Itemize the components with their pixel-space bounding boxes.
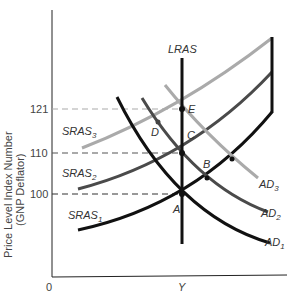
sras2-curve: [78, 72, 272, 189]
ad2-label: AD2: [260, 207, 281, 222]
point-b-label: B: [203, 158, 210, 170]
y-axis-label-line2: (GNP Deflator): [14, 153, 26, 226]
point-d-label: D: [151, 126, 159, 138]
point-ad3-sras1-marker: [230, 157, 235, 162]
ad2-label-sub: 2: [275, 213, 281, 222]
point-a-label: A: [172, 203, 180, 215]
sras3-label-main: SRAS: [62, 125, 93, 137]
tick-label-110: 110: [30, 147, 48, 159]
sras2-label: SRAS2: [62, 167, 97, 182]
x-axis: [52, 275, 287, 277]
ad2-curve: [142, 98, 268, 212]
tick-label-121: 121: [30, 103, 48, 115]
sras3-label-sub: 3: [92, 131, 97, 140]
sras1-label-sub: 1: [98, 215, 102, 224]
point-e-label: E: [188, 103, 196, 115]
ad3-label-sub: 3: [274, 184, 279, 193]
sras3-label: SRAS3: [62, 125, 97, 140]
tick-label-100: 100: [30, 188, 48, 200]
origin-label: 0: [46, 281, 52, 293]
point-e-marker: [179, 106, 185, 112]
sras2-label-main: SRAS: [62, 167, 93, 179]
y-axis-label-line1: Price Level Index Number: [2, 131, 14, 258]
ad1-label: AD1: [264, 236, 285, 251]
ad3-label-main: AD: [258, 178, 274, 190]
ad1-label-sub: 1: [280, 242, 284, 251]
point-d-marker: [156, 120, 161, 125]
point-c-label: C: [187, 129, 195, 141]
lras-label: LRAS: [168, 43, 197, 55]
sras1-label: SRAS1: [68, 209, 102, 224]
point-a-marker: [179, 191, 185, 197]
point-b-marker: [205, 176, 210, 181]
aggregate-supply-demand-chart: 121 110 100 0 Y Price Level Index Number…: [0, 0, 289, 296]
sras1-label-main: SRAS: [68, 209, 99, 221]
point-c-marker: [179, 150, 185, 156]
x-label-y: Y: [178, 281, 186, 293]
ad2-label-main: AD: [260, 207, 276, 219]
ad3-label: AD3: [258, 178, 279, 193]
sras2-label-sub: 2: [91, 173, 97, 182]
ad1-label-main: AD: [264, 236, 280, 248]
